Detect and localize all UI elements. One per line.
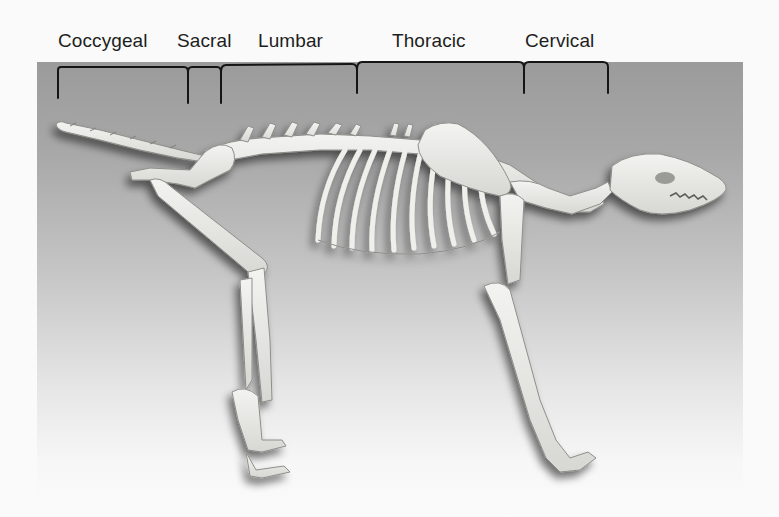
bracket-coccygeal bbox=[58, 67, 188, 103]
hind-leg bbox=[150, 179, 290, 478]
skeleton-illustration bbox=[0, 0, 779, 517]
tail-vertebrae bbox=[56, 122, 205, 162]
fore-leg bbox=[484, 194, 596, 472]
bracket-thoracic bbox=[357, 62, 524, 93]
bracket-cervical bbox=[524, 62, 608, 93]
bracket-lumbar bbox=[221, 64, 357, 93]
bracket-sacral bbox=[188, 67, 221, 103]
skull bbox=[610, 154, 726, 214]
region-brackets bbox=[58, 62, 608, 103]
neck-vertebrae bbox=[510, 181, 612, 214]
